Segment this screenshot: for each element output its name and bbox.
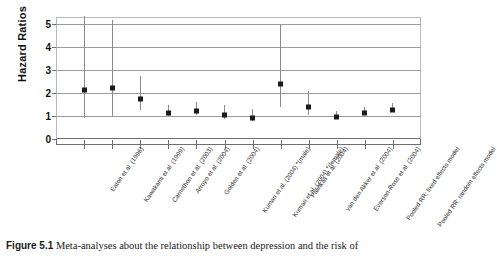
x-axis-end-cap: [420, 139, 421, 145]
x-axis-label: Palinkas et al. (2004): [309, 146, 349, 199]
y-tick-label-4: 4: [45, 41, 51, 52]
point-marker: [166, 111, 171, 116]
point-marker: [250, 116, 255, 121]
caption-label: Figure 5.1: [6, 240, 53, 251]
y-tick-label-3: 3: [45, 64, 51, 75]
point-marker: [110, 86, 115, 91]
point-marker: [138, 96, 143, 101]
confidence-interval-line: [308, 91, 309, 115]
confidence-interval-line: [84, 16, 85, 118]
figure-caption: Figure 5.1 Meta-analyses about the relat…: [6, 240, 426, 253]
point-marker: [362, 110, 367, 115]
point-marker: [306, 105, 311, 110]
caption-text: Meta-analyses about the relationship bet…: [56, 240, 358, 251]
gridline-1: [56, 116, 421, 117]
x-axis-label: Eaton et al. (1996): [110, 146, 145, 193]
y-tick-mark-2: [52, 93, 56, 94]
y-axis-title: Hazard Ratios: [16, 0, 32, 104]
plot-area: 012345: [56, 17, 421, 139]
y-tick-label-1: 1: [45, 111, 51, 122]
point-marker: [222, 112, 227, 117]
point-marker: [278, 82, 283, 87]
confidence-interval-line: [112, 20, 113, 116]
y-tick-label-0: 0: [45, 134, 51, 145]
y-tick-mark-3: [52, 70, 56, 71]
point-marker: [334, 115, 339, 120]
y-tick-label-2: 2: [45, 88, 51, 99]
y-tick-label-5: 5: [45, 18, 51, 29]
x-axis-end-cap: [56, 139, 57, 145]
x-axis-line: [56, 144, 421, 145]
x-axis-label: van den Akker et al. (2004): [344, 146, 393, 212]
x-axis-labels: Eaton et al. (1996)Kawakami et al. (1999…: [0, 146, 429, 236]
y-tick-mark-4: [52, 47, 56, 48]
x-axis-label: Golden et al. (2004): [223, 146, 261, 196]
confidence-interval-line: [280, 25, 281, 107]
y-tick-mark-1: [52, 116, 56, 117]
point-marker: [390, 108, 395, 113]
y-tick-mark-5: [52, 24, 56, 25]
confidence-interval-line: [140, 76, 141, 111]
point-marker: [194, 109, 199, 114]
point-marker: [82, 88, 87, 93]
